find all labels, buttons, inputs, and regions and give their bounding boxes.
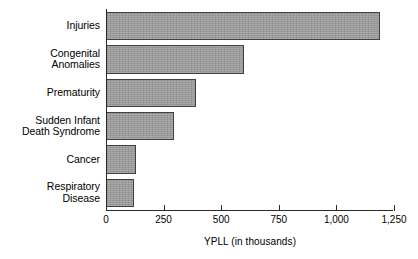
x-tick-label: 0 — [103, 214, 109, 226]
bar — [106, 179, 134, 207]
x-tick-mark — [336, 205, 337, 211]
bar — [106, 79, 196, 107]
bar — [106, 145, 136, 173]
x-tick-mark — [279, 205, 280, 211]
category-label: Injuries — [0, 12, 100, 40]
x-tick-mark — [106, 205, 107, 211]
category-label: RespiratoryDisease — [0, 179, 100, 207]
category-label: Cancer — [0, 145, 100, 173]
x-axis-title: YPLL (in thousands) — [106, 236, 394, 247]
bar — [106, 45, 244, 73]
bar — [106, 12, 380, 40]
category-label: CongenitalAnomalies — [0, 45, 100, 73]
category-label-line: Anomalies — [51, 59, 100, 71]
x-tick-mark — [394, 205, 395, 211]
category-label: Sudden InfantDeath Syndrome — [0, 112, 100, 140]
category-axis: InjuriesCongenitalAnomaliesPrematuritySu… — [0, 8, 100, 208]
x-tick-label: 250 — [155, 214, 172, 226]
bar-chart: InjuriesCongenitalAnomaliesPrematuritySu… — [0, 0, 418, 259]
category-label-line: Prematurity — [47, 87, 100, 99]
category-label-line: Disease — [62, 193, 100, 205]
plot-area — [106, 10, 394, 210]
x-tick-mark — [164, 205, 165, 211]
category-label-line: Death Syndrome — [22, 126, 100, 138]
x-tick-label: 750 — [270, 214, 287, 226]
category-label-line: Cancer — [66, 154, 100, 166]
x-tick-label: 500 — [213, 214, 230, 226]
category-label: Prematurity — [0, 79, 100, 107]
y-axis-line — [106, 9, 107, 211]
x-axis-line — [106, 210, 393, 211]
x-tick-label: 1,250 — [381, 214, 406, 226]
category-label-line: Injuries — [67, 20, 100, 32]
x-tick-mark — [221, 205, 222, 211]
bar — [106, 112, 174, 140]
x-tick-label: 1,000 — [324, 214, 349, 226]
